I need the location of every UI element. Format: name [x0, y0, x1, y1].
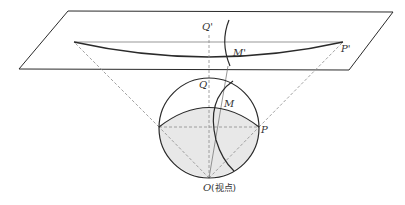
label-o-viewpoint: (视点): [211, 182, 236, 193]
label-q-prime: Q': [202, 21, 213, 32]
dashed-line-left-to-plane: [74, 42, 159, 127]
label-p-prime: P': [340, 43, 350, 54]
label-p: P: [260, 124, 268, 135]
projected-curve: [74, 42, 343, 57]
gnomonic-projection-diagram: Q' M' P' Q M P O (视点): [0, 0, 405, 205]
dashed-line-p-to-p-prime: [259, 42, 343, 127]
projected-meridian-arc: [225, 20, 230, 66]
label-m: M: [223, 98, 235, 109]
label-m-prime: M': [232, 47, 246, 58]
projection-plane: [19, 11, 393, 70]
label-q: Q: [199, 79, 207, 90]
label-o: O: [203, 182, 211, 193]
